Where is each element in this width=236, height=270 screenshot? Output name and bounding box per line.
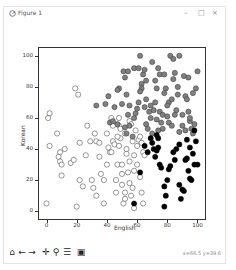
data-point xyxy=(193,86,198,91)
data-point xyxy=(115,87,120,92)
data-point xyxy=(138,170,143,175)
data-point xyxy=(132,153,137,158)
data-point xyxy=(76,92,81,97)
data-point xyxy=(138,89,143,94)
data-point xyxy=(110,119,115,124)
data-point xyxy=(121,201,126,206)
data-point xyxy=(184,97,189,102)
maximize-button[interactable]: □ xyxy=(198,9,205,17)
data-point xyxy=(101,178,106,183)
data-point xyxy=(130,134,135,139)
data-point xyxy=(91,185,96,190)
data-point xyxy=(133,128,138,133)
x-tick-mark xyxy=(197,220,198,223)
data-point xyxy=(55,131,60,136)
data-point xyxy=(133,111,138,116)
data-point xyxy=(119,101,124,106)
data-point xyxy=(129,193,134,198)
y-tick-mark xyxy=(35,56,38,57)
data-point xyxy=(104,131,109,136)
minimize-button[interactable]: – xyxy=(184,9,188,17)
home-icon[interactable]: ⌂ xyxy=(7,246,17,257)
data-point xyxy=(125,112,130,117)
matplotlib-logo-icon xyxy=(9,10,16,17)
data-point xyxy=(130,185,135,190)
data-point xyxy=(171,77,176,82)
data-point xyxy=(171,56,176,61)
close-button[interactable]: × xyxy=(212,9,218,17)
data-point xyxy=(92,131,97,136)
data-point xyxy=(101,201,106,206)
data-point xyxy=(138,134,143,139)
y-tick-label: 60 xyxy=(13,114,33,120)
data-point xyxy=(44,201,49,206)
x-tick-mark xyxy=(77,220,78,223)
data-point xyxy=(177,53,182,58)
title-bar[interactable]: Figure 1 – □ × xyxy=(4,7,225,21)
data-point xyxy=(127,123,132,128)
data-point xyxy=(109,150,114,155)
pan-icon[interactable]: ✛ xyxy=(41,246,51,257)
data-point xyxy=(132,168,137,173)
data-point xyxy=(74,204,79,209)
data-point xyxy=(163,193,168,198)
data-point xyxy=(119,162,124,167)
data-point xyxy=(46,115,51,120)
data-point xyxy=(162,72,167,77)
data-point xyxy=(119,182,124,187)
data-point xyxy=(115,122,120,127)
configure-subplots-icon[interactable]: ☰ xyxy=(62,246,72,257)
data-point xyxy=(177,129,182,134)
data-point xyxy=(160,126,165,131)
figure-canvas[interactable]: 020406080100 020406080100 English Korean xyxy=(4,21,225,243)
save-icon[interactable]: ▣ xyxy=(76,246,86,257)
data-point xyxy=(59,162,64,167)
data-point xyxy=(113,190,118,195)
data-point xyxy=(195,69,200,74)
y-tick-label: 20 xyxy=(13,176,33,182)
data-point xyxy=(94,193,99,198)
data-point xyxy=(148,115,153,120)
data-point xyxy=(153,154,158,159)
data-point xyxy=(186,75,191,80)
data-point xyxy=(138,53,143,58)
data-point xyxy=(172,157,177,162)
y-tick-mark xyxy=(35,211,38,212)
data-point xyxy=(142,67,147,72)
data-point xyxy=(142,143,147,148)
data-point xyxy=(132,201,137,206)
y-tick-mark xyxy=(35,149,38,150)
data-point xyxy=(180,123,185,128)
data-point xyxy=(136,66,141,71)
data-point xyxy=(103,101,108,106)
data-point xyxy=(177,182,182,187)
data-point xyxy=(148,103,153,108)
data-point xyxy=(135,106,140,111)
data-point xyxy=(180,112,185,117)
y-tick-label: 0 xyxy=(13,207,33,213)
data-point xyxy=(193,139,198,144)
data-point xyxy=(156,66,161,71)
data-point xyxy=(144,97,149,102)
data-point xyxy=(145,150,150,155)
data-point xyxy=(163,86,168,91)
data-point xyxy=(115,134,120,139)
data-point xyxy=(165,103,170,108)
data-point xyxy=(178,196,183,201)
data-point xyxy=(184,156,189,161)
data-point xyxy=(145,126,150,131)
data-point xyxy=(187,145,192,150)
data-point xyxy=(88,139,93,144)
data-point xyxy=(169,123,174,128)
data-point xyxy=(153,100,158,105)
y-tick-mark xyxy=(35,180,38,181)
data-point xyxy=(168,164,173,169)
data-point xyxy=(85,123,90,128)
scatter-plot-axes[interactable] xyxy=(38,47,206,220)
forward-arrow-icon[interactable]: → xyxy=(27,246,37,257)
back-arrow-icon[interactable]: ← xyxy=(17,246,27,257)
data-point xyxy=(58,150,63,155)
y-axis-label: Korean xyxy=(19,125,26,146)
data-point xyxy=(151,108,156,113)
zoom-icon[interactable]: ⚲ xyxy=(51,246,61,257)
